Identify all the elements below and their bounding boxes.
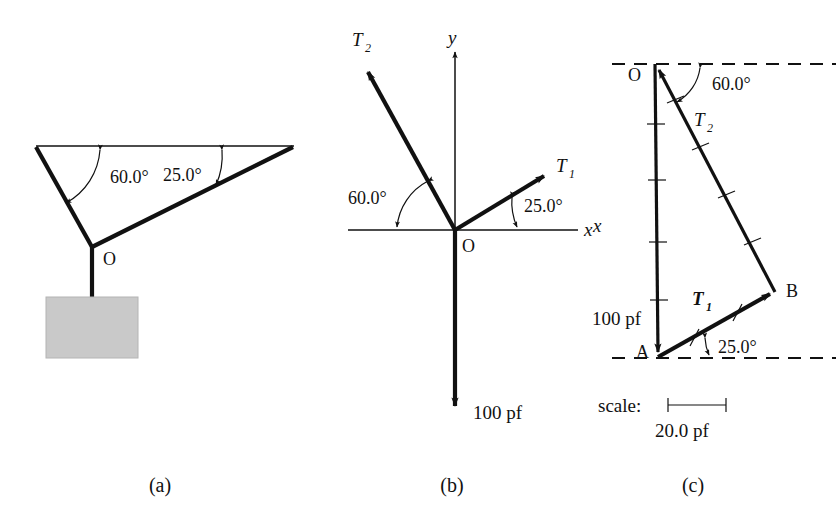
scale-bar-group-c: scale: 20.0 pf [598,395,726,441]
figure-root: 60.0° 25.0° O x y 60.0° 25.0° T 2 T [0,0,838,527]
angle-label-60-a: 60.0° [110,167,149,187]
angle-label-25-a: 25.0° [163,165,202,185]
point-label-o-a: O [103,249,116,269]
vertex-label-a-c: A [636,342,649,362]
scale-label-c: scale: [598,395,641,416]
panel-b-group: x y 60.0° 25.0° T 2 T 1 O 100 pf [348,27,593,423]
caption-b: (b) [440,474,463,497]
caption-c: (c) [682,474,704,497]
scale-value-c: 20.0 pf [655,420,710,441]
angle-label-25-b: 25.0° [524,196,563,216]
vector-label-t1-b-main: T [556,155,568,176]
weight-label-c: 100 pf [592,308,642,329]
angle-arc-25-c [705,338,709,355]
vector-label-t1-b-sub: 1 [569,167,575,181]
panel-captions: (a) (b) (c) [149,474,704,497]
vector-label-t1-c: T 1 [692,288,712,314]
rope-right-a [92,147,293,247]
vector-label-t2-b-sub: 2 [365,41,371,55]
vector-t2-c [659,70,775,292]
rope-left-a [36,147,92,247]
panel-a-group: 60.0° 25.0° O [36,146,294,358]
t2-tick-marks-c [667,96,761,245]
vector-label-t2-c-main: T [694,109,706,130]
vertex-label-o-c: O [628,65,641,85]
vector-label-t1-c-main: T [692,288,705,309]
angle-label-25-c: 25.0° [718,337,757,357]
angle-arc-60-a [66,150,100,203]
vertex-label-b-c: B [786,281,798,301]
axis-label-x-b: x [583,219,593,240]
angle-label-60-c: 60.0° [712,74,751,94]
panel-c-group: 60.0° 25.0° O A B T 2 T 1 x 100 pf scale… [592,64,836,441]
angle-label-60-b: 60.0° [348,188,387,208]
weight-label-b: 100 pf [473,402,523,423]
vector-weight-c [655,64,658,352]
vector-label-t1-c-sub: 1 [706,300,712,314]
angle-arc-25-b [512,197,517,227]
origin-label-o-b: O [462,236,475,256]
angle-arc-25-a [216,150,222,185]
hanging-block [46,297,138,358]
vector-label-t2-b-main: T [352,29,364,50]
angle-arc-60-b [397,181,428,227]
vector-label-t2-c: T 2 [694,109,713,135]
axis-label-x-c: x [592,215,602,236]
vector-label-t1-b: T 1 [556,155,575,181]
vector-label-t2-b: T 2 [352,29,371,55]
vector-label-t2-c-sub: 2 [707,121,713,135]
axis-label-y-b: y [446,27,457,48]
caption-a: (a) [149,474,171,497]
physics-figure-svg: 60.0° 25.0° O x y 60.0° 25.0° T 2 T [0,0,838,527]
